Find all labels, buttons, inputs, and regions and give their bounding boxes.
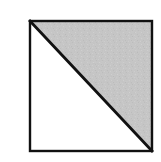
- figure-canvas: [0, 0, 161, 162]
- square-diagram: [0, 0, 161, 162]
